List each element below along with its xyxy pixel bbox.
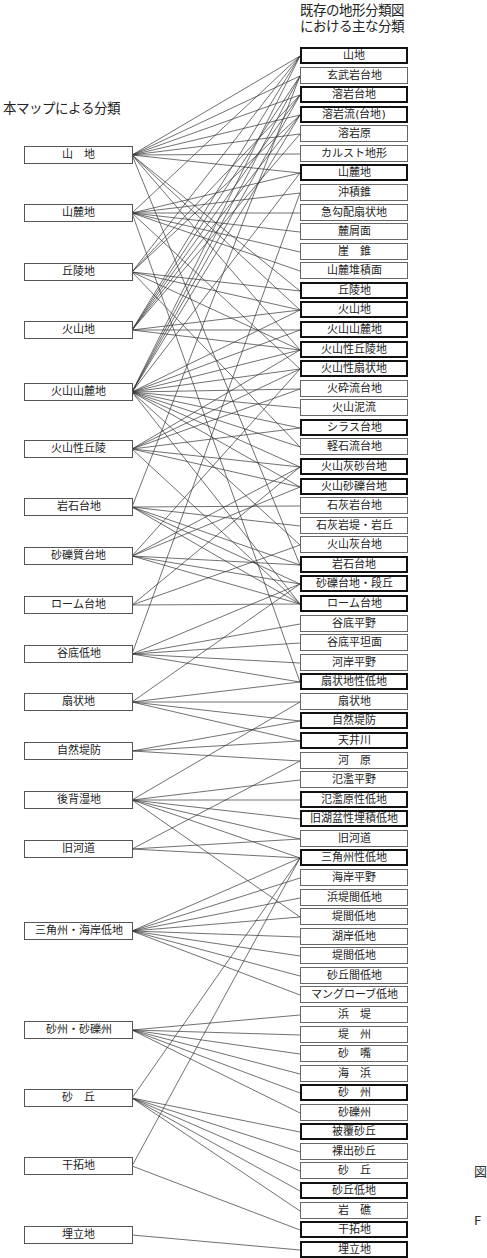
- right-category-box: 火山灰砂台地: [300, 458, 408, 475]
- right-category-box: 堤間低地: [300, 947, 408, 964]
- right-category-box: 砂礫州: [300, 1104, 408, 1121]
- right-category-box: 三角州性低地: [300, 849, 408, 866]
- right-category-box: 火砕流台地: [300, 380, 408, 397]
- left-category-box: 岩石台地: [24, 498, 133, 516]
- right-category-box: マングローブ低地: [300, 986, 408, 1003]
- left-category-box: 火山山麓地: [24, 383, 133, 401]
- right-category-box: 砂 嘴: [300, 1045, 408, 1062]
- caption-fragment-f: F: [474, 1213, 481, 1228]
- right-category-box: 砂礫台地・段丘: [300, 575, 408, 592]
- right-category-box: 堤間低地: [300, 908, 408, 925]
- right-category-box: 砂丘低地: [300, 1182, 408, 1199]
- left-category-box: 谷底低地: [24, 645, 133, 663]
- right-category-box: 扇状地性低地: [300, 673, 408, 690]
- right-category-box: 河岸平野: [300, 654, 408, 671]
- left-category-box: 自然堤防: [24, 742, 133, 760]
- right-category-box: 岩 礁: [300, 1202, 408, 1219]
- left-category-box: 後背湿地: [24, 791, 133, 809]
- left-category-box: 火山地: [24, 321, 133, 339]
- right-category-box: 火山山麓地: [300, 321, 408, 338]
- caption-fragment-zu: 図: [474, 1161, 487, 1180]
- right-category-box: 火山性丘陵地: [300, 341, 408, 358]
- right-category-box: 山麓堆積面: [300, 262, 408, 279]
- right-category-box: 火山性扇状地: [300, 360, 408, 377]
- right-category-box: 氾濫平野: [300, 771, 408, 788]
- right-category-box: 氾濫原性低地: [300, 791, 408, 808]
- right-category-box: 扇状地: [300, 693, 408, 710]
- right-category-box: カルスト地形: [300, 145, 408, 162]
- right-category-box: 砂丘間低地: [300, 967, 408, 984]
- right-category-box: 浜堤間低地: [300, 889, 408, 906]
- right-category-box: 海岸平野: [300, 869, 408, 886]
- right-category-box: 玄武岩台地: [300, 67, 408, 84]
- left-category-box: 扇状地: [24, 693, 133, 711]
- left-category-box: 干拓地: [24, 1157, 133, 1175]
- right-category-box: 浜 堤: [300, 1006, 408, 1023]
- left-category-box: 火山性丘陵: [24, 440, 133, 458]
- right-category-box: ローム台地: [300, 595, 408, 612]
- left-category-box: 埋立地: [24, 1226, 133, 1244]
- right-category-box: 溶岩原: [300, 125, 408, 142]
- right-category-box: 沖積錐: [300, 184, 408, 201]
- right-category-box: シラス台地: [300, 419, 408, 436]
- right-category-box: 火山灰台地: [300, 536, 408, 553]
- right-category-box: 溶岩流(台地): [300, 106, 408, 123]
- right-category-box: 崖 錐: [300, 243, 408, 260]
- left-category-box: 旧河道: [24, 840, 133, 858]
- left-category-box: 砂礫質台地: [24, 547, 133, 565]
- right-category-box: 溶岩台地: [300, 86, 408, 103]
- right-category-box: 丘陵地: [300, 282, 408, 299]
- left-category-box: 丘陵地: [24, 263, 133, 281]
- right-category-box: 岩石台地: [300, 556, 408, 573]
- right-category-box: 山地: [300, 47, 408, 64]
- left-category-box: 三角州・海岸低地: [24, 922, 133, 940]
- right-category-box: 麓屑面: [300, 223, 408, 240]
- right-category-box: 火山砂礫台地: [300, 478, 408, 495]
- right-category-box: 旧湖盆性埋積低地: [300, 810, 408, 827]
- right-category-box: 砂 丘: [300, 1162, 408, 1179]
- right-category-box: 火山地: [300, 301, 408, 318]
- right-category-box: 海 浜: [300, 1065, 408, 1082]
- right-category-box: 軽石流台地: [300, 438, 408, 455]
- right-category-box: 山麓地: [300, 164, 408, 181]
- right-category-box: 裸出砂丘: [300, 1143, 408, 1160]
- right-category-box: 埋立地: [300, 1241, 408, 1258]
- right-category-box: 石灰岩台地: [300, 497, 408, 514]
- right-category-box: 谷底平野: [300, 615, 408, 632]
- right-category-box: 自然堤防: [300, 712, 408, 729]
- right-category-box: 火山泥流: [300, 399, 408, 416]
- right-category-box: 干拓地: [300, 1221, 408, 1238]
- right-category-box: 旧河道: [300, 830, 408, 847]
- left-category-box: ローム台地: [24, 596, 133, 614]
- right-category-box: 河 原: [300, 752, 408, 769]
- right-category-box: 砂 州: [300, 1084, 408, 1101]
- left-category-box: 砂州・砂礫州: [24, 1021, 133, 1039]
- left-category-box: 山 地: [24, 146, 133, 164]
- right-category-box: 堤 州: [300, 1026, 408, 1043]
- right-category-box: 石灰岩堤・岩丘: [300, 517, 408, 534]
- right-category-box: 被覆砂丘: [300, 1123, 408, 1140]
- right-category-box: 天井川: [300, 732, 408, 749]
- right-category-box: 谷底平坦面: [300, 634, 408, 651]
- right-category-box: 湖岸低地: [300, 928, 408, 945]
- left-category-box: 砂 丘: [24, 1089, 133, 1107]
- right-category-box: 急勾配扇状地: [300, 204, 408, 221]
- left-category-box: 山麓地: [24, 204, 133, 222]
